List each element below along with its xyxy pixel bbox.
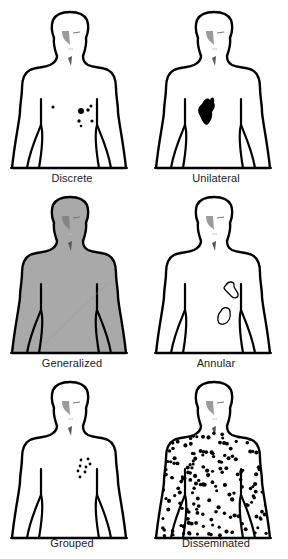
- panel-disseminated: Disseminated: [144, 370, 288, 556]
- panel-label-discrete: Discrete: [0, 172, 144, 184]
- body-figure-discrete: [0, 0, 144, 172]
- panel-label-unilateral: Unilateral: [144, 172, 288, 184]
- panel-label-grouped: Grouped: [0, 537, 144, 549]
- panel-label-disseminated: Disseminated: [144, 537, 288, 549]
- panel-unilateral: Unilateral: [144, 0, 288, 186]
- body-figure-grouped: [0, 370, 144, 542]
- panel-annular: Annular: [144, 185, 288, 371]
- body-figure-generalized: [0, 185, 144, 357]
- panel-label-generalized: Generalized: [0, 357, 144, 369]
- body-figure-unilateral: [144, 0, 288, 172]
- body-figure-disseminated: [144, 370, 288, 542]
- panel-label-annular: Annular: [144, 357, 288, 369]
- panel-discrete: Discrete: [0, 0, 144, 186]
- body-figure-annular: [144, 185, 288, 357]
- lesion-distribution-figure: Discrete Unilateral Generalized Annular …: [0, 0, 288, 559]
- panel-grouped: Grouped: [0, 370, 144, 556]
- panel-generalized: Generalized: [0, 185, 144, 371]
